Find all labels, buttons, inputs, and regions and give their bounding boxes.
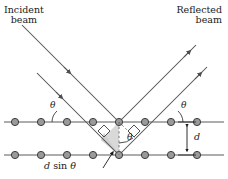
theta-label-left: θ <box>50 101 55 110</box>
atom <box>141 118 148 125</box>
atom <box>37 118 44 125</box>
path-difference-leader-arrow <box>103 152 113 168</box>
path-difference-sin: sin <box>53 160 67 171</box>
theta-label-right: θ <box>181 101 186 110</box>
incident-beam-label: Incident beam <box>4 5 44 25</box>
atom <box>11 118 18 125</box>
theta-arc-right <box>178 111 183 122</box>
reflected-arrowheads <box>184 51 201 79</box>
incident-beam-label-line2: beam <box>4 15 44 25</box>
path-difference-label: d sin θ <box>44 161 76 171</box>
diagram-canvas <box>0 0 228 179</box>
path-difference-theta: θ <box>70 160 76 171</box>
atom <box>89 151 96 158</box>
path-difference-shaded-region <box>101 122 119 155</box>
atom <box>63 118 70 125</box>
incident-arrowheads <box>56 67 70 98</box>
atom <box>11 151 18 158</box>
atom <box>89 118 96 125</box>
reflected-beam-label-line2: beam <box>176 15 222 25</box>
theta-label-center: θ <box>127 133 132 142</box>
atom <box>141 151 148 158</box>
atom <box>63 151 70 158</box>
atom <box>37 151 44 158</box>
atom <box>167 118 174 125</box>
atom <box>167 151 174 158</box>
bragg-diffraction-figure: Incident beam Reflected beam θ θ θ d d s… <box>0 0 228 179</box>
reflected-beam-label: Reflected beam <box>176 5 222 25</box>
incident-ray-lower <box>37 73 119 155</box>
incident-ray-upper <box>22 25 119 122</box>
theta-arc-left <box>52 111 57 122</box>
plane-spacing-label: d <box>194 132 200 142</box>
